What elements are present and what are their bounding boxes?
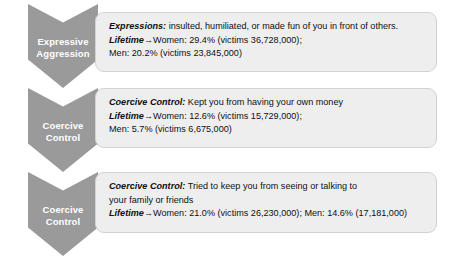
description-panel: Coercive Control: Tried to keep you from… <box>95 172 437 233</box>
panel-line: Lifetime→Women: 12.6% (victims 15,729,00… <box>109 110 425 124</box>
diagram-row: Coercive Control Coercive Control: Kept … <box>0 84 453 172</box>
panel-line: Coercive Control: Tried to keep you from… <box>109 180 425 194</box>
diagram-row: Expressive Aggression Expressions: insul… <box>0 0 453 88</box>
line-lead: Lifetime <box>109 208 144 218</box>
chevron-label: Coercive Control <box>43 200 84 229</box>
line-rest: Men: 5.7% (victims 6,675,000) <box>109 124 232 134</box>
panel-line: Lifetime→Women: 29.4% (victims 36,728,00… <box>109 34 425 48</box>
line-rest: Kept you from having your own money <box>185 97 343 107</box>
right-arrow-icon: → <box>144 208 153 218</box>
panel-line: your family or friends <box>109 194 425 208</box>
chevron-label: Coercive Control <box>43 116 84 145</box>
victimization-flow-diagram: Expressive Aggression Expressions: insul… <box>0 0 453 262</box>
line-rest: Women: 21.0% (victims 26,230,000); Men: … <box>153 208 407 218</box>
line-rest: insulted, humiliated, or made fun of you… <box>166 21 398 31</box>
chevron-shape-expressive-aggression: Expressive Aggression <box>28 4 98 88</box>
panel-line: Coercive Control: Kept you from having y… <box>109 96 425 110</box>
line-lead: Coercive Control: <box>109 97 185 107</box>
line-rest: Women: 29.4% (victims 36,728,000); <box>153 35 302 45</box>
panel-line: Lifetime→Women: 21.0% (victims 26,230,00… <box>109 207 425 221</box>
line-rest: Women: 12.6% (victims 15,729,000); <box>153 111 302 121</box>
right-arrow-icon: → <box>144 35 153 45</box>
line-rest: Tried to keep you from seeing or talking… <box>185 181 357 191</box>
description-panel: Expressions: insulted, humiliated, or ma… <box>95 12 437 72</box>
chevron-shape-coercive-control: Coercive Control <box>28 88 98 172</box>
line-lead: Expressions: <box>109 21 166 31</box>
line-lead: Lifetime <box>109 111 144 121</box>
panel-line: Men: 5.7% (victims 6,675,000) <box>109 123 425 137</box>
line-lead: Coercive Control: <box>109 181 185 191</box>
chevron-label: Expressive Aggression <box>36 32 89 61</box>
chevron-shape-coercive-control: Coercive Control <box>28 172 98 256</box>
right-arrow-icon: → <box>144 111 153 121</box>
line-rest: Men: 20.2% (victims 23,845,000) <box>109 48 242 58</box>
line-lead: Lifetime <box>109 35 144 45</box>
panel-line: Expressions: insulted, humiliated, or ma… <box>109 20 425 34</box>
panel-line: Men: 20.2% (victims 23,845,000) <box>109 47 425 61</box>
description-panel: Coercive Control: Kept you from having y… <box>95 88 437 148</box>
diagram-row: Coercive Control Coercive Control: Tried… <box>0 168 453 258</box>
line-rest: your family or friends <box>109 195 193 205</box>
